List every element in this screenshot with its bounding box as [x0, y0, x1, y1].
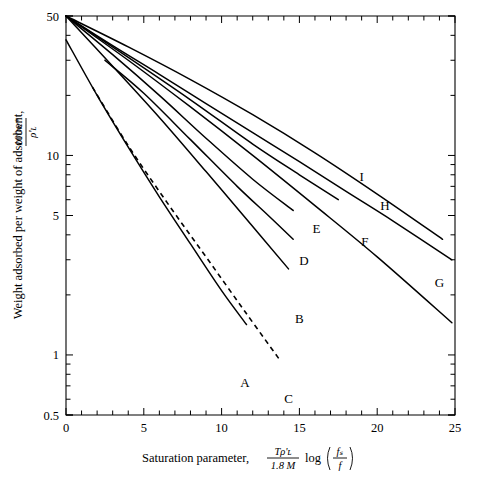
x-axis-arg-denominator: f — [339, 460, 344, 471]
y-tick-label: 1 — [53, 348, 59, 362]
x-axis-fraction-denominator: 1.8 M — [271, 460, 297, 471]
paren-right-icon — [350, 447, 353, 470]
curve-label-f: F — [361, 234, 368, 249]
curve-labels-layer: ABCDEFGHI — [240, 169, 444, 406]
curve-label-h: H — [380, 198, 389, 213]
x-tick-label: 20 — [371, 421, 384, 435]
y-axis-tick-labels: 0.5151050 — [43, 10, 59, 423]
x-tick-label: 10 — [215, 421, 228, 435]
curve-h — [66, 16, 338, 200]
curve-label-e: E — [313, 221, 321, 236]
y-axis-fraction-denominator: ρ'ʟ — [27, 126, 38, 138]
x-axis-title-fraction: Tρ'ʟ 1.8 M — [267, 446, 299, 471]
curve-label-g: G — [435, 275, 444, 290]
x-tick-label: 15 — [293, 421, 306, 435]
curve-f — [66, 16, 452, 323]
curve-label-c: C — [284, 391, 293, 406]
x-axis-log-argument: fₛ f — [328, 446, 353, 471]
curve-i — [66, 16, 452, 260]
x-axis-title-prefix: Saturation parameter, — [142, 451, 249, 465]
x-tick-label: 0 — [63, 421, 69, 435]
x-axis-fraction-numerator: Tρ'ʟ — [274, 446, 291, 457]
curves-layer — [66, 16, 452, 361]
y-tick-label: 50 — [47, 10, 60, 24]
x-axis-title: Saturation parameter, Tρ'ʟ 1.8 M log fₛ … — [142, 446, 353, 471]
y-tick-label: 10 — [47, 149, 60, 163]
curve-a — [66, 40, 247, 325]
x-tick-label: 25 — [449, 421, 462, 435]
curve-e — [66, 16, 293, 210]
curve-b — [66, 16, 289, 269]
chart-canvas: ABCDEFGHI 0.5151050 0510152025 Weight ad… — [0, 0, 478, 489]
y-axis-fraction-numerator: 100w* — [13, 117, 24, 146]
curve-c — [92, 87, 280, 361]
curve-label-d: D — [299, 253, 308, 268]
curve-label-i: I — [359, 169, 363, 184]
paren-left-icon — [328, 447, 331, 470]
curve-label-b: B — [295, 311, 304, 326]
y-axis-title-fraction: 100w* ρ'ʟ — [13, 117, 38, 146]
curve-d — [105, 60, 293, 239]
x-tick-label: 5 — [141, 421, 147, 435]
curve-label-a: A — [240, 375, 250, 390]
x-axis-log-operator: log — [305, 451, 322, 465]
figure-container: ABCDEFGHI 0.5151050 0510152025 Weight ad… — [0, 0, 478, 489]
x-axis-tick-labels: 0510152025 — [63, 421, 461, 435]
y-tick-label: 0.5 — [43, 409, 59, 423]
x-axis-arg-numerator: fₛ — [337, 446, 344, 457]
y-tick-label: 5 — [53, 209, 59, 223]
